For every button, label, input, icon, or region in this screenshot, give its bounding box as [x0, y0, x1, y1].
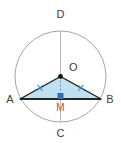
- label-d: D: [57, 8, 65, 20]
- label-a: A: [6, 93, 14, 105]
- label-b: B: [106, 93, 113, 105]
- midpoint-square-marker: [58, 93, 64, 99]
- center-point-dot: [58, 74, 63, 79]
- label-c: C: [57, 127, 65, 139]
- label-m: M: [56, 102, 64, 113]
- geometry-canvas: D O A B C M: [0, 0, 121, 143]
- geometry-figure: D O A B C M: [0, 0, 121, 143]
- label-o: O: [69, 61, 78, 73]
